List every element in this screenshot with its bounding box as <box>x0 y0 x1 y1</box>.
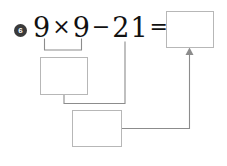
difference-box[interactable] <box>72 110 122 147</box>
result-box[interactable] <box>166 11 214 48</box>
up-arrow-icon <box>186 48 194 57</box>
underbrace-bracket <box>45 39 82 50</box>
difference-to-result-connector <box>122 56 190 129</box>
product-box[interactable] <box>40 57 88 95</box>
math-worksheet-problem: 6 9×9−21= <box>0 0 227 166</box>
